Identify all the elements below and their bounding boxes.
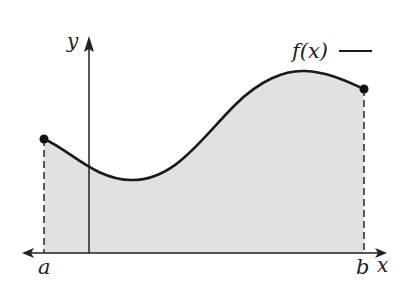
endpoint-a — [40, 135, 49, 144]
endpoint-b — [360, 85, 369, 94]
bound-a-label: a — [38, 255, 51, 279]
legend-label: f(x) — [290, 39, 328, 63]
y-axis-label: y — [66, 29, 79, 53]
shaded-area — [44, 71, 364, 253]
x-axis-label: x — [377, 253, 388, 277]
diagram-canvas: f(x) y x a b — [0, 0, 415, 285]
bound-b-label: b — [356, 255, 369, 279]
area-under-curve-diagram: f(x) y x a b — [0, 0, 415, 285]
